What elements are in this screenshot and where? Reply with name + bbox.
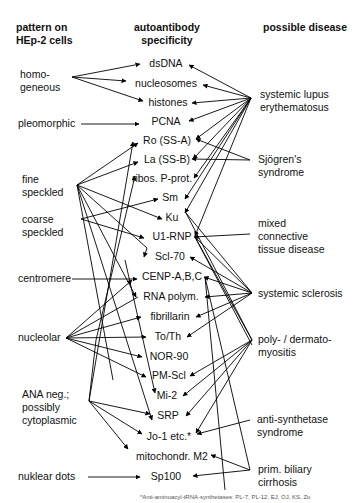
antibody-histones: histones <box>148 96 187 109</box>
pattern-homogeneous: homo- geneous <box>20 68 60 94</box>
antibody-ribosomal-p: ribos. P-prot. <box>132 172 192 185</box>
antibody-srp: SRP <box>157 409 179 422</box>
antibody-nucleosomes: nucleosomes <box>135 77 197 90</box>
antibody-ro: Ro (SS-A) <box>143 134 191 147</box>
disease-polymyositis: poly- / dermato- myositis <box>258 333 332 359</box>
antibody-mi2: Mi-2 <box>157 389 177 402</box>
antibody-sp100: Sp100 <box>151 470 181 483</box>
disease-mctd: mixed connective tissue disease <box>258 217 325 256</box>
antibody-to-th: To/Th <box>155 330 181 343</box>
antibody-jo1: Jo-1 etc.* <box>147 430 191 443</box>
disease-sle: systemic lupus erythematosus <box>260 88 329 114</box>
footnote: *Anti-aminoacyl-tRNA-synthetases: PL-7, … <box>140 494 310 500</box>
antibody-fibrillarin: fibrillarin <box>150 310 189 323</box>
antibody-la: La (SS-B) <box>144 153 190 166</box>
pattern-nucleolar: nucleolar <box>18 331 61 344</box>
antibody-dsdna: dsDNA <box>149 57 182 70</box>
disease-anti-synthetase: anti-synthetase syndrome <box>257 413 328 439</box>
antibody-sm: Sm <box>162 191 178 204</box>
antibody-u1rnp: U1-RNP <box>152 230 191 243</box>
antibody-ku: Ku <box>166 211 179 224</box>
antibody-nor90: NOR-90 <box>150 350 189 363</box>
disease-pbc: prim. biliary cirrhosis <box>258 463 312 489</box>
pattern-nuclear-dots: nuklear dots <box>18 470 75 483</box>
pattern-coarse-speckled: coarse speckled <box>22 213 63 239</box>
disease-systemic-sclerosis: systemic sclerosis <box>258 287 343 300</box>
disease-sjogren: Sjögren's syndrome <box>258 153 304 179</box>
antibody-mitochondrial-m2: mitochondr. M2 <box>136 450 208 463</box>
pattern-centromere: centromere <box>18 272 71 285</box>
antibody-scl70: Scl-70 <box>155 250 185 263</box>
pattern-pleomorphic: pleomorphic <box>18 117 75 130</box>
antibody-cenp: CENP-A,B,C <box>142 270 202 283</box>
antibody-pm-scl: PM-Scl <box>152 369 186 382</box>
antibody-pcna: PCNA <box>151 115 180 128</box>
pattern-fine-speckled: fine speckled <box>22 173 63 199</box>
antibody-rna-polymerase: RNA polym. <box>143 290 198 303</box>
pattern-ana-negative: ANA neg.; possibly cytoplasmic <box>22 388 77 427</box>
